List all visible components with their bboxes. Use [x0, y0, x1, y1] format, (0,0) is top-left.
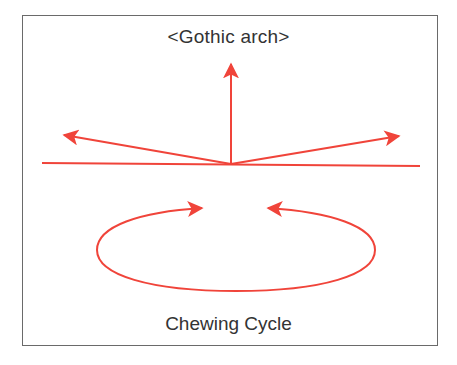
- chewing-cycle-right-arc: [236, 208, 375, 291]
- gothic-arch-diagram: [0, 0, 457, 365]
- diagram-caption: Chewing Cycle: [0, 313, 457, 335]
- chewing-cycle-left-arc: [97, 208, 236, 291]
- right-arrow: [231, 136, 399, 164]
- left-arrow: [64, 135, 231, 164]
